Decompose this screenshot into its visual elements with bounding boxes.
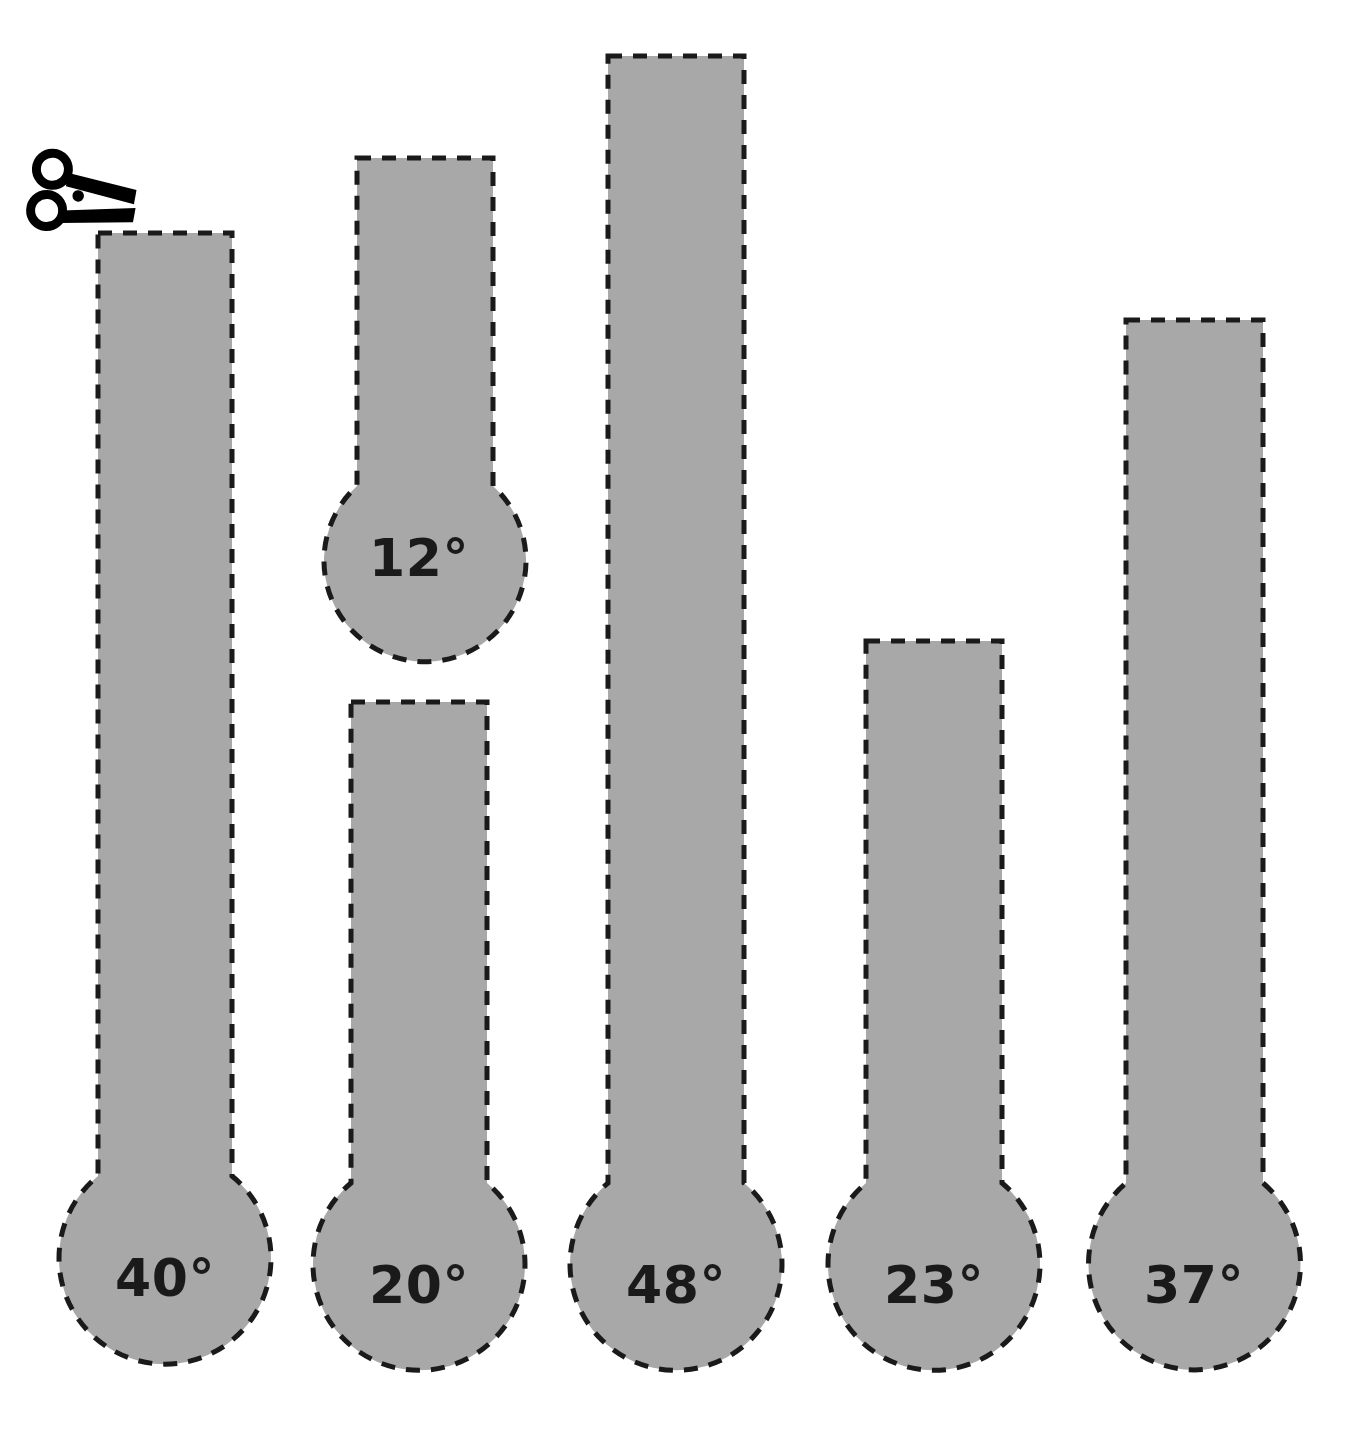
thermometer-5-shape bbox=[1088, 320, 1300, 1370]
thermometer-illustration: 12° 40° 20° 48° 23° 37° bbox=[0, 0, 1351, 1430]
thermometer-4[interactable]: 23° bbox=[828, 641, 1040, 1370]
thermometer-2-label: 20° bbox=[369, 1255, 469, 1315]
thermometer-5-label: 37° bbox=[1144, 1255, 1244, 1315]
detached-piece-12[interactable]: 12° bbox=[324, 158, 526, 662]
thermometer-3[interactable]: 48° bbox=[570, 56, 782, 1370]
thermometer-4-label: 23° bbox=[884, 1255, 984, 1315]
worksheet-canvas: 12° 40° 20° 48° 23° 37° bbox=[0, 0, 1351, 1430]
thermometer-3-shape bbox=[570, 56, 782, 1370]
detached-piece-12-label: 12° bbox=[369, 528, 469, 588]
thermometer-3-label: 48° bbox=[626, 1255, 726, 1315]
thermometer-1-label: 40° bbox=[115, 1248, 215, 1308]
thermometer-1[interactable]: 40° bbox=[59, 233, 271, 1364]
thermometer-5[interactable]: 37° bbox=[1088, 320, 1300, 1370]
thermometer-2[interactable]: 20° bbox=[313, 702, 525, 1370]
thermometer-1-shape bbox=[59, 233, 271, 1364]
